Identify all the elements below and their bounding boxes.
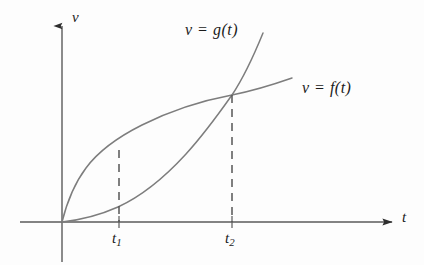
t-axis-label: t bbox=[402, 210, 406, 225]
tick-label-t1-sub: 1 bbox=[116, 236, 121, 248]
tick-label-t2: t2 bbox=[225, 231, 235, 248]
velocity-graph-figure: v t v = g(t) v = f(t) t1 t2 bbox=[0, 0, 424, 265]
tick-label-t2-sub: 2 bbox=[229, 236, 234, 248]
graph-canvas bbox=[0, 0, 424, 265]
curve-label-f: v = f(t) bbox=[302, 80, 351, 96]
v-axis-label: v bbox=[72, 10, 79, 25]
curve-label-g: v = g(t) bbox=[185, 22, 238, 38]
curve-f bbox=[62, 78, 292, 222]
tick-label-t1: t1 bbox=[112, 231, 122, 248]
curve-g bbox=[62, 33, 263, 222]
